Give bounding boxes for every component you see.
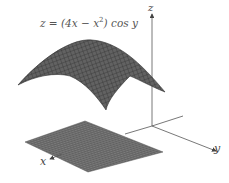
surface-shading	[18, 40, 165, 110]
surface-plot-figure: z = (4x − x2) cos y z y x	[0, 0, 229, 183]
y-axis-negative	[152, 116, 183, 126]
x-axis-label: x	[40, 155, 46, 168]
y-axis	[152, 126, 216, 151]
z-axis-label: z	[148, 2, 153, 13]
x-axis-back	[125, 126, 152, 134]
equation-label: z = (4x − x2) cos y	[40, 16, 138, 29]
y-axis-label: y	[214, 142, 220, 155]
